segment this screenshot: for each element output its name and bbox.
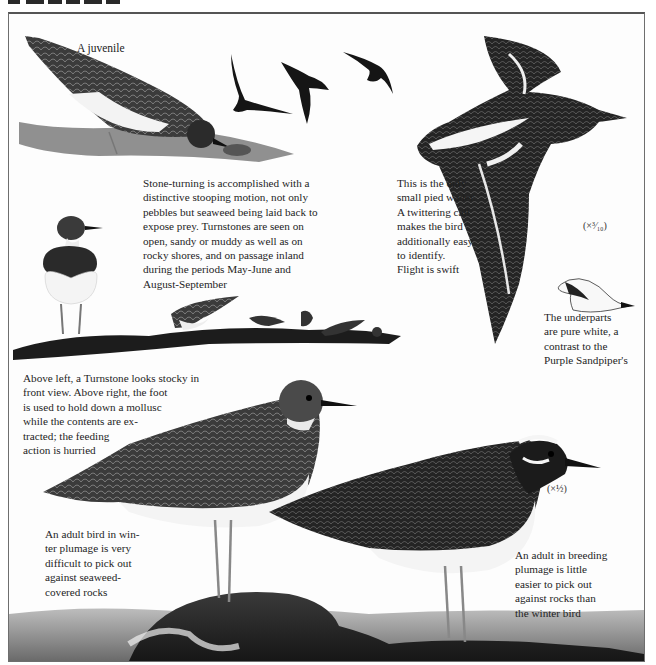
flight-underside-illustration <box>558 279 635 312</box>
underparts-caption: The underparts are pure white, a contras… <box>544 310 628 368</box>
illustration-plate: A juvenile Stone-turning is accomplished… <box>8 12 645 662</box>
flock-flying-illustration <box>231 52 393 124</box>
front-view-caption: Above left, a Turnstone looks stocky in … <box>23 371 199 457</box>
breeding-adult-caption: An adult in breeding plumage is little e… <box>515 548 607 620</box>
feeding-group-illustration <box>13 296 401 360</box>
pied-wader-caption: This is the only small pied wader. A twi… <box>397 176 476 277</box>
stone-turning-caption: Stone-turning is accomplished with a dis… <box>143 176 318 291</box>
juvenile-label: A juvenile <box>77 42 125 54</box>
adult-scale-label: (×½) <box>547 483 567 494</box>
winter-adult-caption: An adult bird in win- ter plumage is ver… <box>45 527 139 599</box>
juvenile-feeding-illustration <box>19 36 294 162</box>
clipped-page-header <box>0 0 656 10</box>
front-view-illustration <box>43 216 103 334</box>
flight-scale-label: (×³⁄₁₀) <box>583 220 607 231</box>
